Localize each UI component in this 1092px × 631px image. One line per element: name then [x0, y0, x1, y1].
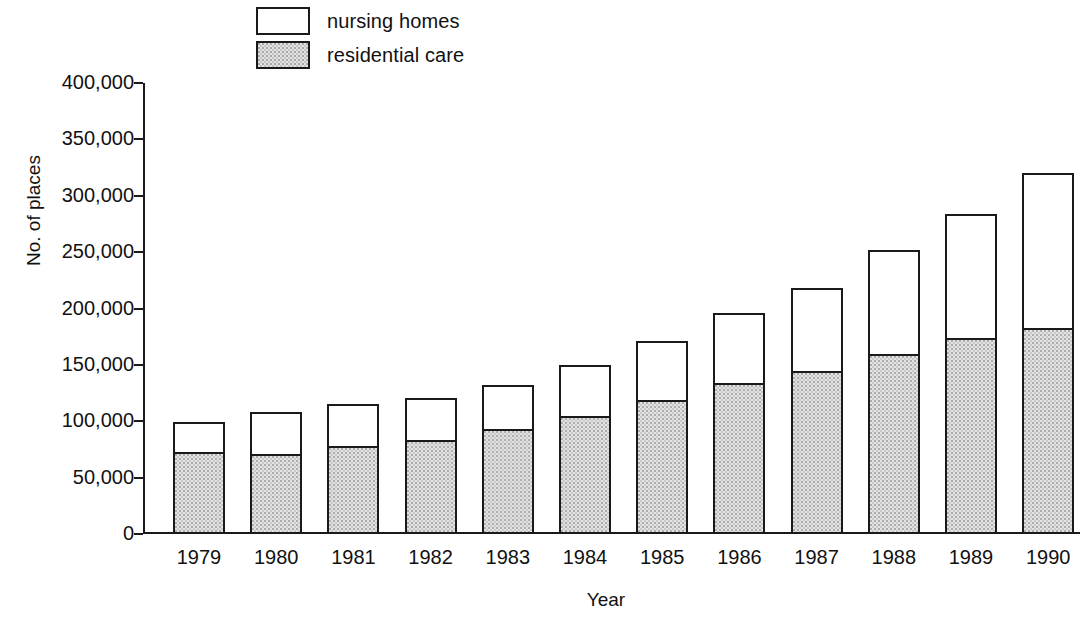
y-axis-tick [134, 477, 143, 479]
bar-1981 [327, 404, 379, 534]
bar-segment-residential-care [1024, 328, 1072, 532]
legend-label-residential-care: residential care [327, 44, 464, 67]
bar-1985 [636, 341, 688, 534]
bar-1984 [559, 365, 611, 534]
y-axis-tick [134, 82, 143, 84]
legend-item-residential-care: residential care [256, 38, 556, 72]
y-axis-tick [134, 533, 143, 535]
x-axis-title: Year [0, 589, 1092, 611]
legend-label-nursing-homes: nursing homes [327, 10, 459, 33]
legend-swatch-nursing-homes [256, 7, 310, 35]
bar-1989 [945, 214, 997, 534]
bar-1988 [868, 250, 920, 534]
y-axis-tick [134, 420, 143, 422]
x-axis-tick-label-1990: 1990 [1003, 546, 1092, 569]
x-axis-title-text: Year [587, 589, 625, 610]
legend-swatch-residential-care [256, 41, 310, 69]
bar-segment-residential-care [329, 446, 377, 532]
bar-segment-residential-care [715, 383, 763, 532]
legend-item-nursing-homes: nursing homes [256, 4, 556, 38]
y-axis-tick-label: 200,000 [0, 297, 134, 320]
bar-1986 [713, 313, 765, 534]
bar-segment-residential-care [793, 371, 841, 532]
bar-segment-residential-care [561, 416, 609, 532]
bar-1990 [1022, 173, 1074, 534]
bar-1987 [791, 288, 843, 534]
y-axis-tick-label: 400,000 [0, 71, 134, 94]
y-axis-tick-label: 250,000 [0, 240, 134, 263]
plot-area: No. of places 050,000100,000150,000200,0… [143, 83, 1080, 534]
bar-segment-residential-care [252, 454, 300, 532]
y-axis-tick-label: 150,000 [0, 353, 134, 376]
bar-segment-residential-care [407, 440, 455, 532]
y-axis-tick-label: 0 [0, 522, 134, 545]
y-axis-line [143, 83, 145, 534]
bar-segment-residential-care [870, 354, 918, 532]
y-axis-tick [134, 251, 143, 253]
y-axis-tick-label: 100,000 [0, 410, 134, 433]
chart-figure: nursing homes residential care No. of pl… [0, 0, 1092, 631]
y-axis-tick [134, 195, 143, 197]
bar-1979 [173, 422, 225, 534]
y-axis-tick-label: 300,000 [0, 184, 134, 207]
y-axis-tick [134, 364, 143, 366]
bar-1982 [405, 398, 457, 534]
y-axis-tick [134, 138, 143, 140]
chart-legend: nursing homes residential care [256, 4, 556, 72]
y-axis-tick-label: 350,000 [0, 128, 134, 151]
bar-segment-residential-care [175, 452, 223, 532]
bar-segment-residential-care [484, 429, 532, 532]
bar-1980 [250, 412, 302, 534]
y-axis-tick [134, 308, 143, 310]
y-axis-tick-label: 50,000 [0, 466, 134, 489]
bar-segment-residential-care [638, 400, 686, 532]
bar-segment-residential-care [947, 338, 995, 532]
bar-1983 [482, 385, 534, 534]
